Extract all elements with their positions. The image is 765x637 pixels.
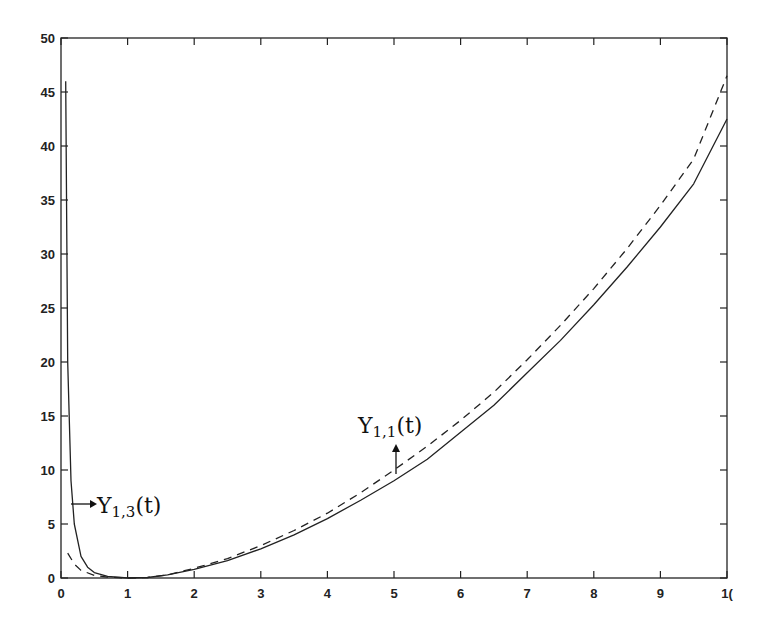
- x-tick-label: 3: [257, 586, 264, 601]
- y-tick-label: 0: [48, 571, 55, 586]
- y-tick-label: 25: [41, 301, 55, 316]
- y-tick-label: 5: [48, 517, 55, 532]
- x-tick-label: 4: [324, 586, 332, 601]
- annotation-suffix: (t): [135, 493, 161, 518]
- line-chart: 01234567891( 05101520253035404550 Υ1,3(t…: [0, 0, 765, 637]
- y-tick-label: 15: [41, 409, 55, 424]
- y-tick-label: 35: [41, 193, 55, 208]
- series-dashed-line: [68, 76, 727, 578]
- x-tick-label: 9: [657, 586, 664, 601]
- annotation-symbol: Υ: [96, 493, 112, 518]
- y-tick-label: 40: [41, 139, 55, 154]
- x-tick-label: 7: [524, 586, 531, 601]
- x-tick-label: 6: [457, 586, 464, 601]
- y-tick-label: 30: [41, 247, 55, 262]
- y-tick-label: 50: [41, 31, 55, 46]
- y-tick-label: 45: [41, 85, 55, 100]
- arrowhead-icon: [90, 500, 97, 508]
- x-tick-label: 1: [124, 586, 131, 601]
- series-solid-line: [66, 81, 727, 578]
- y-tick-label: 20: [41, 355, 55, 370]
- y-tick-label: 10: [41, 463, 55, 478]
- x-tick-label: 8: [590, 586, 597, 601]
- annotation-suffix: (t): [396, 413, 422, 438]
- arrowhead-icon: [392, 444, 400, 452]
- x-tick-label: 5: [390, 586, 397, 601]
- series-lines: [66, 76, 727, 578]
- svg-text:Υ1,1(t): Υ1,1(t): [357, 413, 422, 441]
- annotation-upsilon-1-3: Υ1,3(t): [71, 493, 161, 521]
- x-tick-label: 2: [191, 586, 198, 601]
- x-tick-label: 1(: [721, 586, 733, 601]
- svg-text:Υ1,3(t): Υ1,3(t): [96, 493, 161, 521]
- annotation-subscript: 1,1: [373, 423, 397, 441]
- annotation-upsilon-1-1: Υ1,1(t): [357, 413, 422, 474]
- annotation-subscript: 1,3: [112, 503, 136, 521]
- x-tick-label: 0: [57, 586, 64, 601]
- annotation-symbol: Υ: [357, 413, 373, 438]
